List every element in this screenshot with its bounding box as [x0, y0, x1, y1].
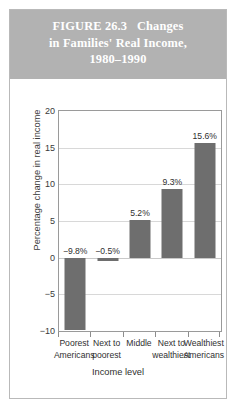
y-axis-tick-label: 0	[13, 253, 55, 263]
x-axis-label: Income level	[10, 367, 226, 377]
x-axis-category-labels: PoorestAmericansNext topoorestMiddleNext…	[52, 338, 228, 366]
bar[interactable]	[194, 143, 215, 257]
bar-slot: −0.5%	[91, 111, 123, 331]
figure-title-line-2: in Families' Real Income,	[10, 35, 226, 52]
bar-value-label: −9.8%	[63, 246, 88, 256]
bar-value-label: −0.5%	[95, 246, 120, 256]
figure-header: FIGURE 26.3 Changes in Families' Real In…	[10, 10, 226, 79]
bar-series: −9.8%−0.5%5.2%9.3%15.6%	[59, 111, 221, 331]
y-axis-tick-label: 20	[13, 106, 55, 116]
x-axis-tick	[155, 332, 156, 337]
y-axis-tick-label: 5	[13, 216, 55, 226]
bar[interactable]	[97, 258, 118, 262]
bar-slot: 9.3%	[156, 111, 188, 331]
chart-area: Percentage change in real income 2015105…	[10, 79, 226, 398]
bar-value-label: 5.2%	[130, 208, 150, 218]
bar[interactable]	[65, 258, 86, 330]
figure-title: FIGURE 26.3 Changes in Families' Real In…	[10, 18, 226, 68]
y-axis-tick-label: −5	[13, 289, 55, 299]
x-axis-category-line: poorest	[85, 350, 129, 362]
bar-value-label: 9.3%	[163, 177, 183, 187]
x-axis-category-line: Wealthiest	[182, 338, 226, 350]
figure-container: FIGURE 26.3 Changes in Families' Real In…	[9, 9, 227, 399]
x-axis-category-label: WealthiestAmericans	[182, 338, 226, 361]
figure-title-line-3: 1980–1990	[10, 51, 226, 68]
bar[interactable]	[162, 189, 183, 257]
bar-slot: 15.6%	[189, 111, 221, 331]
bar-slot: 5.2%	[124, 111, 156, 331]
bar[interactable]	[129, 220, 150, 258]
bar-slot: −9.8%	[59, 111, 91, 331]
x-axis-tick	[90, 332, 91, 337]
x-axis-tick	[123, 332, 124, 337]
x-axis-tick	[188, 332, 189, 337]
figure-title-line-1: FIGURE 26.3 Changes	[10, 18, 226, 35]
x-axis-tick	[219, 332, 220, 337]
y-axis-tick-label: −10	[13, 326, 55, 336]
y-axis-tick-label: 10	[13, 179, 55, 189]
x-axis-tick	[58, 332, 59, 337]
x-axis-ticks	[58, 332, 222, 337]
x-axis-category-line: Americans	[182, 350, 226, 362]
bar-value-label: 15.6%	[193, 131, 217, 141]
y-axis-tick-label: 15	[13, 143, 55, 153]
plot-frame: 20151050−5−10 −9.8%−0.5%5.2%9.3%15.6%	[58, 110, 222, 332]
